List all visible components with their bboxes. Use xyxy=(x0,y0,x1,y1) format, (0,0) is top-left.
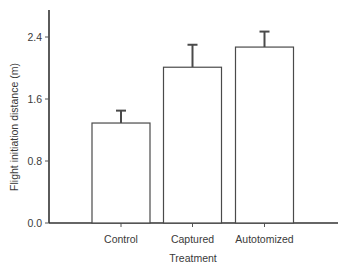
bar-rect xyxy=(236,47,294,223)
x-tick-label: Autotomized xyxy=(235,233,294,245)
bar-rect xyxy=(92,123,150,223)
bar-rect xyxy=(164,67,222,223)
y-tick-label: 0.0 xyxy=(27,217,42,229)
y-tick-label: 1.6 xyxy=(27,93,42,105)
x-tick-label: Control xyxy=(104,233,138,245)
bar-control xyxy=(92,111,150,223)
bar-chart: 0.00.81.62.4 ControlCapturedAutotomized … xyxy=(0,0,345,269)
bar-autotomized xyxy=(236,32,294,223)
x-axis: ControlCapturedAutotomized xyxy=(49,223,338,245)
bars xyxy=(92,32,294,223)
y-axis: 0.00.81.62.4 xyxy=(27,10,49,229)
y-axis-title: Flight initiation distance (m) xyxy=(8,63,20,191)
bar-captured xyxy=(164,45,222,223)
y-tick-label: 2.4 xyxy=(27,31,42,43)
x-axis-title: Treatment xyxy=(169,252,217,264)
x-tick-label: Captured xyxy=(171,233,214,245)
y-tick-label: 0.8 xyxy=(27,155,42,167)
